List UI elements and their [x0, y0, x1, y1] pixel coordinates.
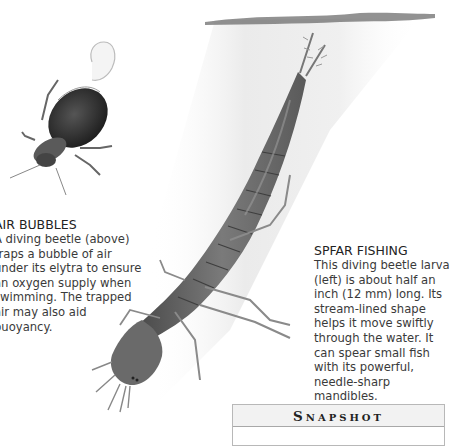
snapshot-title-rest: NAPSHOT	[306, 412, 384, 423]
caption-body: A diving beetle (above) traps a bubble o…	[0, 232, 144, 334]
caption-heading: AIR BUBBLES	[0, 217, 144, 232]
caption-body: This diving beetle larva (left) is about…	[314, 258, 451, 404]
caption-heading: SPFAR FISHING	[314, 243, 451, 258]
snapshot-header: SNAPSHOT	[233, 405, 444, 427]
snapshot-box: SNAPSHOT	[232, 404, 445, 446]
snapshot-first-letter: S	[293, 408, 306, 424]
beetle-illustration	[10, 42, 120, 195]
caption-air-bubbles: AIR BUBBLES A diving beetle (above) trap…	[0, 217, 144, 334]
caption-spear-fishing: SPFAR FISHING This diving beetle larva (…	[314, 243, 451, 404]
